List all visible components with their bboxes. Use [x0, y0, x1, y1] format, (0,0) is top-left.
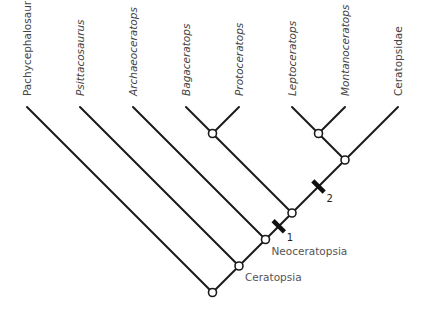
- character-marker-label-2: 2: [327, 193, 333, 204]
- branch-n3-bp: [213, 134, 293, 214]
- cladogram: 12 PachycephalosauriaPsittacosaurusArcha…: [0, 0, 421, 318]
- taxon-label-archae: Archaeoceratops: [127, 7, 139, 97]
- node-root: [209, 289, 217, 297]
- branch-ceratopsia-neoceratopsia: [239, 240, 266, 267]
- clade-label-ceratopsia: Ceratopsia: [245, 271, 302, 283]
- node-neoceratopsia: [262, 236, 270, 244]
- node-bp: [209, 130, 217, 138]
- taxon-label-proto: Protoceratops: [233, 22, 245, 96]
- node-n3: [288, 209, 296, 217]
- branch-bp-bago: [186, 107, 213, 134]
- branch-neoceratopsia-archae: [133, 107, 266, 240]
- branch-bp-proto: [213, 107, 240, 134]
- branch-lm-lepto: [292, 107, 319, 134]
- branch-root-ceratopsia: [213, 266, 240, 293]
- branch-lm-monta: [319, 107, 346, 134]
- node-ceratopsia: [235, 262, 243, 270]
- taxon-label-bago: Bagaceratops: [180, 23, 192, 96]
- node-n4: [341, 156, 349, 164]
- taxon-label-psitt: Psittacosaurus: [74, 19, 86, 96]
- branch-n4-cerat: [345, 107, 398, 160]
- character-markers: 12: [273, 181, 333, 243]
- taxon-label-pachy: Pachycephalosauria: [21, 0, 33, 96]
- clade-label-neoceratopsia: Neoceratopsia: [272, 245, 348, 257]
- branch-root-pachy: [27, 107, 213, 293]
- node-lm: [315, 130, 323, 138]
- branch-n4-lm: [319, 134, 346, 161]
- taxon-label-lepto: Leptoceratops: [286, 20, 298, 96]
- character-marker-label-1: 1: [287, 232, 293, 243]
- taxon-label-monta: Montanoceratops: [339, 4, 351, 96]
- taxon-label-cerat: Ceratopsidae: [392, 26, 404, 96]
